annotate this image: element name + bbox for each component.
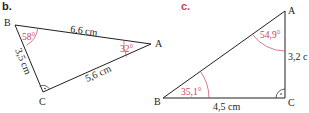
triangle-c [163, 11, 285, 98]
vertex-c-B: B [154, 96, 161, 107]
vertex-c-C: C [288, 97, 295, 108]
angle-label-b-A: 32° [120, 44, 134, 54]
angle-arc-c-B [200, 71, 209, 98]
angle-label-c-B: 35,1° [181, 87, 202, 97]
figure-b: b. B A C 6,6 cm 3,5 cm 5,6 cm 58° 32° [2, 0, 163, 107]
figure-b-label: b. [2, 0, 12, 12]
side-b-BC: 3,5 cm [13, 46, 34, 76]
side-c-BC: 4,5 cm [213, 101, 240, 112]
side-c-CA: 3,2 c [288, 51, 308, 62]
right-angle-dot-c [280, 93, 282, 95]
vertex-b-A: A [155, 38, 163, 49]
figure-c: c. A B C 4,5 cm 3,2 c 54,9° 35,1° [154, 0, 308, 112]
figure-c-label: c. [181, 0, 190, 12]
angle-label-b-B: 58° [22, 32, 36, 42]
angle-label-c-A: 54,9° [260, 30, 281, 40]
side-b-CA: 5,6 cm [83, 63, 113, 84]
vertex-b-B: B [4, 17, 11, 28]
vertex-c-A: A [288, 5, 296, 16]
right-angle-dot-b [44, 88, 46, 90]
geometry-figure: b. B A C 6,6 cm 3,5 cm 5,6 cm 58° 32° c. [0, 0, 309, 113]
side-b-AB: 6,6 cm [70, 23, 99, 38]
vertex-b-C: C [39, 96, 46, 107]
